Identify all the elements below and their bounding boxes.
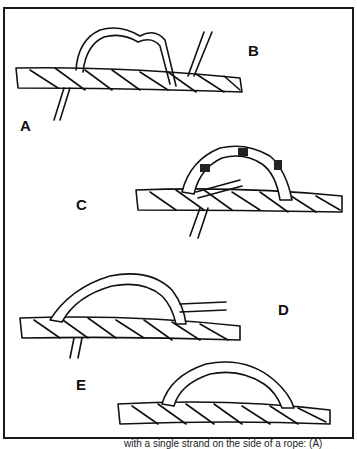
figure-caption: with a single strand on the side of a ro… — [4, 438, 356, 449]
rope-panel-ab — [16, 28, 242, 120]
rope-panel-d — [20, 274, 240, 358]
label-d: D — [278, 301, 289, 318]
label-e: E — [76, 376, 86, 393]
rope-panel-c — [136, 146, 342, 238]
label-c: C — [76, 196, 87, 213]
caption-text: with a single strand on the side of a ro… — [4, 438, 322, 449]
label-b: B — [248, 42, 259, 59]
label-a: A — [20, 117, 31, 134]
rope-panel-e — [118, 362, 330, 424]
